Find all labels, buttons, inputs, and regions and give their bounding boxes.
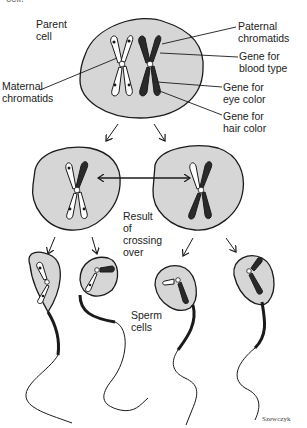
label-maternal-chromatids: Maternal chromatids [2, 80, 53, 104]
label-result-crossing-over: Result of crossing over [123, 210, 162, 258]
label-gene-eye-color: Gene for eye color [223, 81, 266, 105]
daughter-cell-right [153, 146, 243, 230]
label-parent-cell: Parent cell [36, 18, 67, 42]
sperm-cell-2 [80, 257, 148, 410]
sperm-cell-4 [234, 256, 274, 420]
daughter-cell-left [33, 147, 121, 230]
label-sperm-cells: Sperm cells [131, 309, 162, 333]
label-gene-hair-color: Gene for hair color [223, 110, 266, 134]
label-paternal-chromatids: Paternal chromatids [238, 20, 289, 44]
artist-signature: Szewczyk [262, 415, 290, 423]
sperm-cell-3 [155, 266, 197, 425]
sperm-cell-1 [26, 252, 72, 423]
label-gene-blood-type: Gene for blood type [239, 50, 287, 74]
parent-cell [40, 19, 238, 118]
